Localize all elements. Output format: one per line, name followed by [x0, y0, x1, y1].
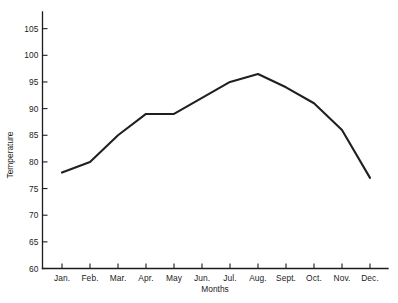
x-tick-label: May: [166, 273, 183, 283]
x-tick-label: Jan.: [54, 273, 70, 283]
y-tick-label: 90: [29, 104, 39, 114]
x-axis-tick-labels: Jan.Feb.Mar.Apr.MayJun.Jul.Aug.Sept.Oct.…: [54, 273, 379, 283]
x-tick-label: Sept.: [276, 273, 296, 283]
y-axis-tick-marks: [43, 29, 48, 269]
x-axis-title: Months: [201, 284, 228, 294]
x-tick-label: Jun.: [194, 273, 210, 283]
y-tick-label: 70: [29, 210, 39, 220]
x-axis-tick-marks: [62, 264, 370, 269]
x-tick-label: Nov.: [334, 273, 351, 283]
y-tick-label: 85: [29, 130, 39, 140]
chart-container: 6065707580859095100105 Jan.Feb.Mar.Apr.M…: [0, 0, 398, 303]
y-tick-label: 60: [29, 264, 39, 274]
x-tick-label: Feb.: [81, 273, 98, 283]
x-tick-label: Apr.: [138, 273, 153, 283]
temperature-series-line: [62, 74, 370, 178]
x-tick-label: Dec.: [361, 273, 379, 283]
x-tick-label: Jul.: [223, 273, 236, 283]
y-tick-label: 80: [29, 157, 39, 167]
y-axis-tick-labels: 6065707580859095100105: [24, 24, 39, 274]
line-chart: 6065707580859095100105 Jan.Feb.Mar.Apr.M…: [0, 0, 398, 303]
x-tick-label: Mar.: [110, 273, 127, 283]
y-axis-title: Temperature: [5, 131, 15, 178]
y-tick-label: 75: [29, 184, 39, 194]
y-tick-label: 100: [24, 50, 39, 60]
y-tick-label: 105: [24, 24, 39, 34]
x-tick-label: Aug.: [249, 273, 267, 283]
y-tick-label: 65: [29, 237, 39, 247]
x-tick-label: Oct.: [306, 273, 322, 283]
y-tick-label: 95: [29, 77, 39, 87]
